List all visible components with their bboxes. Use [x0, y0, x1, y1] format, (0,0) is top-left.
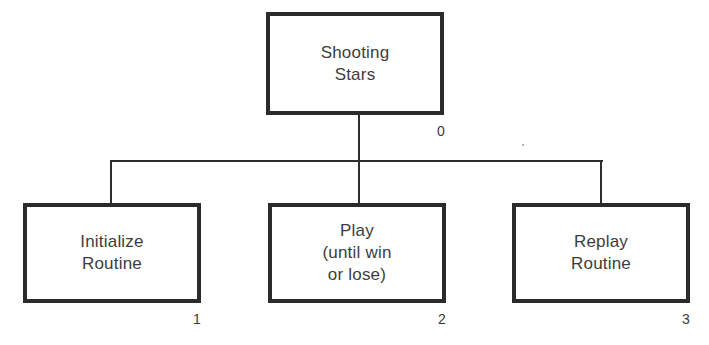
- scan-artifact-dot: [522, 144, 524, 146]
- module-number-root: 0: [437, 124, 445, 138]
- module-label-initialize-routine: Initialize Routine: [80, 231, 143, 275]
- connector-horizontal-bus: [110, 160, 603, 162]
- module-box-initialize-routine: Initialize Routine: [23, 203, 201, 303]
- module-label-root: Shooting Stars: [321, 42, 390, 86]
- connector-drop-1: [110, 160, 112, 205]
- connector-drop-3: [600, 160, 602, 205]
- module-box-play: Play (until win or lose): [268, 203, 446, 303]
- module-label-play: Play (until win or lose): [322, 220, 391, 286]
- hierarchy-diagram: Shooting Stars 0 Initialize Routine 1 Pl…: [0, 0, 709, 345]
- module-box-replay-routine: Replay Routine: [512, 203, 690, 303]
- module-number-initialize-routine: 1: [193, 312, 201, 326]
- module-number-play: 2: [438, 312, 446, 326]
- module-box-root: Shooting Stars: [266, 12, 444, 115]
- module-label-replay-routine: Replay Routine: [571, 231, 631, 275]
- connector-root-trunk: [358, 113, 360, 205]
- module-number-replay-routine: 3: [682, 312, 690, 326]
